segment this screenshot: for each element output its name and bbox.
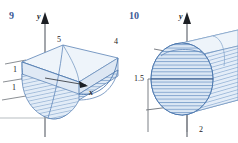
figure-pair-canvas: 9 y x 1 1 5 4 — [0, 0, 238, 143]
fig9-tick-label-1-lower: 1 — [12, 84, 16, 92]
fig10-y-axis-arrowhead — [183, 12, 191, 24]
fig9-tick-label-1-upper: 1 — [13, 66, 17, 74]
figure-9-number: 9 — [9, 11, 14, 21]
fig10-tick-label-2: 2 — [199, 126, 203, 134]
fig9-tick-label-5: 5 — [57, 36, 61, 44]
figure-9-graphic — [0, 0, 120, 143]
figure-10-number: 10 — [129, 11, 139, 21]
fig10-tick-label-1point5: 1.5 — [134, 75, 144, 83]
fig9-y-axis-arrowhead — [41, 12, 49, 24]
fig9-y-axis-label: y — [37, 13, 41, 21]
fig9-x-axis-label: x — [89, 89, 93, 97]
figure-10-graphic — [118, 0, 238, 143]
figure-9: 9 y x 1 1 5 4 — [0, 0, 120, 143]
figure-10: 10 y 1.5 2 — [118, 0, 238, 143]
fig10-y-axis-label: y — [179, 13, 183, 21]
